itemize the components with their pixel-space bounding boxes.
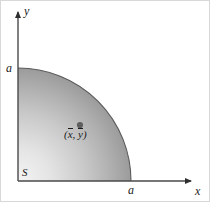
figure-container: y a S a x (x, y) xyxy=(0,0,210,202)
y-axis-tick-label-a: a xyxy=(6,62,12,74)
centroid-paren-close: ) xyxy=(83,128,87,140)
centroid-label: (x, y) xyxy=(64,128,87,140)
y-axis-label: y xyxy=(24,5,29,17)
x-axis-tick-label-a: a xyxy=(128,184,134,196)
x-axis-label: x xyxy=(195,185,200,197)
region-quarter-disc xyxy=(18,68,131,181)
figure-graphic xyxy=(1,1,210,202)
region-label-s: S xyxy=(22,167,28,178)
